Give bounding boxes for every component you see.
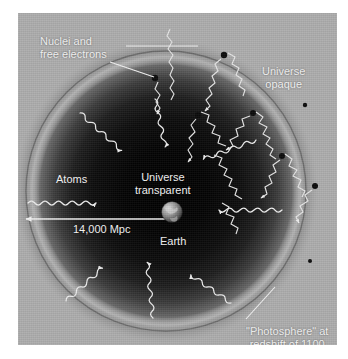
particle-dot-icon — [303, 103, 307, 107]
particle-dot-icon — [312, 183, 318, 189]
label-photosphere-line2: redshift of 1100 — [250, 338, 325, 345]
label-photosphere-line1: "Photosphere" at — [246, 325, 328, 337]
label-photosphere: "Photosphere" at redshift of 1100 — [246, 325, 328, 345]
label-universe-transparent-line1: Universe — [141, 171, 184, 183]
particle-dot-icon — [279, 153, 285, 159]
label-nuclei-line1: Nuclei and — [40, 35, 92, 47]
label-nuclei-line2: free electrons — [40, 48, 107, 60]
label-universe-transparent: Universe transparent — [135, 171, 191, 196]
particle-dot-icon — [250, 110, 256, 116]
diagram-panel: Nuclei and free electrons Universe opaqu… — [18, 13, 337, 345]
particle-dot-icon — [128, 146, 132, 150]
particle-dot-icon — [152, 75, 158, 81]
label-earth: Earth — [160, 235, 186, 248]
particle-dot-icon — [195, 112, 201, 118]
label-atoms: Atoms — [56, 173, 87, 186]
label-universe-opaque-line2: opaque — [265, 78, 302, 90]
earth-globe-icon — [162, 202, 183, 223]
cosmology-figure: Nuclei and free electrons Universe opaqu… — [0, 0, 348, 359]
label-universe-opaque-line1: Universe — [262, 65, 305, 77]
label-universe-transparent-line2: transparent — [135, 184, 191, 196]
label-universe-opaque: Universe opaque — [262, 65, 305, 90]
particle-dot-icon — [221, 52, 227, 58]
label-nuclei-and-free-electrons: Nuclei and free electrons — [40, 35, 107, 60]
label-distance: 14,000 Mpc — [73, 223, 130, 236]
particle-dot-icon — [308, 259, 312, 263]
